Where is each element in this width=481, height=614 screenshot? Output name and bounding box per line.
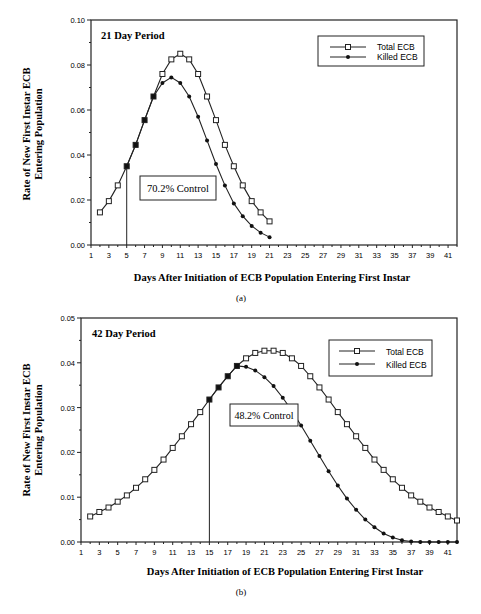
killed-ecb-point (178, 81, 182, 85)
x-tick-label: 41 (444, 251, 452, 260)
x-tick-label: 31 (355, 251, 363, 260)
total-ecb-point (363, 445, 368, 450)
total-ecb-point (289, 356, 294, 361)
killed-ecb-point (400, 538, 404, 542)
total-ecb-point (258, 210, 263, 215)
chart-a-legend: Total ECB Killed ECB (318, 36, 424, 66)
chart-a-annotation-text: 70.2% Control (147, 183, 209, 194)
total-ecb-point (207, 397, 212, 402)
x-tick-label: 27 (319, 251, 327, 260)
chart-a-x-axis-label: Days After Initiation of ECB Population … (134, 272, 411, 283)
x-tick-label: 7 (142, 251, 146, 260)
total-ecb-point (143, 477, 148, 482)
x-tick-label: 21 (260, 548, 268, 557)
total-ecb-point (151, 94, 156, 99)
killed-ecb-point (232, 201, 236, 205)
chart-b-caption: (b) (236, 587, 247, 597)
killed-ecb-point (363, 518, 367, 522)
killed-ecb-line (209, 366, 457, 542)
total-ecb-point (179, 434, 184, 439)
x-tick-label: 19 (242, 548, 250, 557)
x-tick-label: 35 (389, 548, 397, 557)
total-ecb-point (267, 219, 272, 224)
chart-a: 0.000.020.040.060.080.101357911131517192… (0, 0, 481, 307)
open-square-marker-icon (346, 45, 351, 50)
total-ecb-point (249, 199, 254, 204)
total-ecb-point (170, 445, 175, 450)
total-ecb-point (326, 397, 331, 402)
y-tick-label: 0.00 (60, 538, 75, 547)
total-ecb-point (198, 410, 203, 415)
total-ecb-point (115, 499, 120, 504)
x-tick-label: 11 (176, 251, 184, 260)
killed-ecb-line (127, 77, 270, 237)
x-tick-label: 7 (134, 548, 138, 557)
y-tick-label: 0.10 (70, 16, 85, 25)
y-tick-label: 0.02 (70, 196, 85, 205)
total-ecb-point (308, 374, 313, 379)
total-ecb-point (88, 514, 93, 519)
total-ecb-point (97, 509, 102, 514)
x-tick-label: 27 (315, 548, 323, 557)
x-tick-label: 17 (230, 251, 238, 260)
killed-ecb-point (418, 540, 422, 544)
killed-ecb-point (317, 454, 321, 458)
total-ecb-point (178, 51, 183, 56)
y-tick-label: 0.01 (60, 493, 75, 502)
x-tick-label: 29 (334, 548, 342, 557)
killed-ecb-point (327, 469, 331, 473)
total-ecb-point (106, 505, 111, 510)
killed-ecb-point (455, 540, 459, 544)
total-ecb-point (205, 94, 210, 99)
total-ecb-point (344, 422, 349, 427)
x-tick-label: 29 (337, 251, 345, 260)
total-ecb-point (124, 493, 129, 498)
killed-ecb-point (336, 484, 340, 488)
total-ecb-point (280, 350, 285, 355)
killed-ecb-point (262, 375, 266, 379)
total-ecb-point (418, 499, 423, 504)
x-tick-label: 39 (426, 251, 434, 260)
total-ecb-point (399, 485, 404, 490)
x-tick-label: 17 (224, 548, 232, 557)
y-tick-label: 0.05 (60, 314, 75, 323)
chart-b-annotation-text: 48.2% Control (235, 410, 294, 421)
legend-killed-label: Killed ECB (377, 52, 418, 62)
total-ecb-point (152, 467, 157, 472)
chart-a-y-axis-label: Rate of New First Instar ECB (21, 67, 32, 200)
killed-ecb-point (196, 115, 200, 119)
total-ecb-point (436, 509, 441, 514)
x-tick-label: 11 (169, 548, 177, 557)
chart-a-caption: (a) (236, 293, 246, 303)
chart-b-title: 42 Day Period (92, 328, 156, 339)
killed-ecb-point (160, 81, 164, 85)
killed-ecb-point (372, 525, 376, 529)
killed-ecb-point (427, 540, 431, 544)
x-tick-label: 31 (352, 548, 360, 557)
total-ecb-point (244, 356, 249, 361)
killed-ecb-point (253, 368, 257, 372)
total-ecb-point (187, 57, 192, 62)
total-ecb-point (124, 164, 129, 169)
total-ecb-point (381, 467, 386, 472)
killed-ecb-point (437, 540, 441, 544)
total-ecb-point (97, 210, 102, 215)
killed-ecb-point (272, 384, 276, 388)
x-tick-label: 25 (297, 548, 305, 557)
killed-ecb-point (391, 536, 395, 540)
total-ecb-point (189, 422, 194, 427)
total-ecb-point (222, 142, 227, 147)
killed-ecb-point (223, 183, 227, 187)
killed-ecb-point (354, 508, 358, 512)
total-ecb-point (354, 434, 359, 439)
total-ecb-point (445, 514, 450, 519)
killed-ecb-point (345, 497, 349, 501)
total-ecb-point (134, 485, 139, 490)
killed-ecb-point (241, 214, 245, 218)
chart-b-y-axis-label: Rate of New First Instar ECB (21, 363, 32, 496)
filled-dot-marker-icon (346, 55, 350, 59)
x-tick-label: 33 (372, 251, 380, 260)
x-tick-label: 33 (370, 548, 378, 557)
x-tick-label: 5 (125, 251, 129, 260)
x-tick-label: 35 (390, 251, 398, 260)
